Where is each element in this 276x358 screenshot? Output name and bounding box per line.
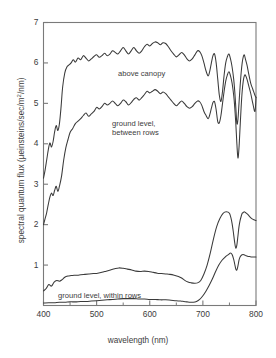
x-axis-tick-label: 800 — [240, 309, 272, 319]
y-axis-label: spectral quantum flux (µeinsteins/sec/m2… — [16, 35, 27, 285]
series-annotation-2: ground level, within rows — [58, 291, 141, 300]
x-axis-tick-label: 700 — [187, 309, 219, 319]
x-axis-tick-label: 600 — [134, 309, 166, 319]
series-line-1 — [44, 72, 257, 225]
x-axis-tick-label: 400 — [28, 309, 60, 319]
x-axis-tick-label: 500 — [81, 309, 113, 319]
y-axis-tick-label: 3 — [25, 179, 39, 189]
y-axis-tick-label: 6 — [25, 57, 39, 67]
y-axis-tick-label: 7 — [25, 17, 39, 27]
series-annotation-1: ground level, between rows — [112, 119, 159, 138]
chart-figure: spectral quantum flux (µeinsteins/sec/m2… — [0, 0, 276, 358]
series-annotation-0: above canopy — [118, 69, 165, 78]
series-line-2 — [44, 212, 257, 291]
y-axis-tick-label: 4 — [25, 138, 39, 148]
y-axis-tick-label: 5 — [25, 98, 39, 108]
plot-area — [0, 0, 276, 358]
y-axis-tick-label: 1 — [25, 260, 39, 270]
plot-frame — [44, 23, 257, 306]
series-line-0 — [44, 42, 257, 178]
x-axis-label: wavelength (nm) — [0, 336, 276, 345]
y-axis-tick-label: 2 — [25, 219, 39, 229]
y-axis-label-suffix: /nm) — [17, 77, 26, 94]
y-axis-label-exponent: 2 — [16, 94, 22, 97]
